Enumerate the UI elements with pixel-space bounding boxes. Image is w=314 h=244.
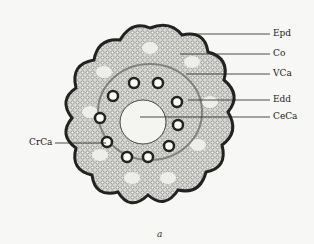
label-central-canal: CeCa bbox=[273, 112, 297, 121]
label-epidermis: Epd bbox=[273, 29, 291, 38]
label-cortex: Co bbox=[273, 49, 285, 58]
label-endodermis: Edd bbox=[273, 95, 291, 104]
figure-caption: a bbox=[157, 229, 162, 239]
stem-section bbox=[66, 25, 234, 203]
label-carinal-canal: CrCa bbox=[29, 138, 52, 147]
central-canal bbox=[120, 100, 166, 144]
stem-cross-section-diagram bbox=[0, 0, 314, 244]
label-vallecular-canal: VCa bbox=[273, 69, 292, 78]
